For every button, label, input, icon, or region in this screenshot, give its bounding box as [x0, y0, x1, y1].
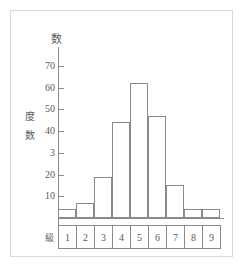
category-cell: 3	[95, 226, 113, 248]
y-axis-tick-label: 40	[33, 126, 55, 136]
histogram-bar	[202, 209, 220, 218]
y-axis-tick-label: 50	[33, 104, 55, 114]
histogram-bar	[76, 203, 94, 218]
histogram-bar	[94, 177, 112, 218]
category-row: 級 123456789	[40, 225, 221, 249]
y-axis-tick-label: 3	[33, 148, 55, 158]
category-cell: 1	[59, 226, 77, 248]
baseline-axis	[58, 218, 224, 219]
category-cell: 6	[149, 226, 167, 248]
category-cell: 9	[203, 226, 221, 248]
histogram-bar	[130, 83, 148, 218]
y-axis-tick-label: 20	[33, 170, 55, 180]
category-cell: 2	[77, 226, 95, 248]
category-cell: 5	[131, 226, 149, 248]
y-axis-tick-label: 70	[33, 61, 55, 71]
category-cell: 7	[167, 226, 185, 248]
histogram-bar	[148, 116, 166, 218]
y-axis-tick-label: 10	[33, 191, 55, 201]
histogram-bar	[166, 185, 184, 218]
category-cell: 8	[185, 226, 203, 248]
y-axis-top-label: 数	[45, 33, 67, 45]
histogram-chart: 数 度 数 7060504032010 級 123456789	[11, 11, 234, 258]
x-axis-title: 級	[40, 225, 58, 249]
y-axis-tick-label: 60	[33, 83, 55, 93]
category-cell: 4	[113, 226, 131, 248]
category-cells: 123456789	[58, 225, 221, 249]
scanned-page-frame: 数 度 数 7060504032010 級 123456789	[10, 10, 233, 257]
histogram-bars	[58, 47, 221, 218]
histogram-bar	[184, 209, 202, 218]
histogram-bar	[58, 209, 76, 218]
histogram-bar	[112, 122, 130, 218]
